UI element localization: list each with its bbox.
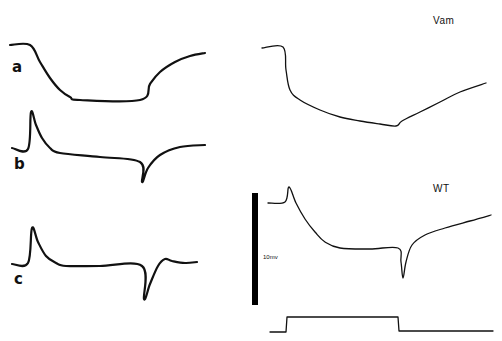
trace-wt bbox=[268, 187, 491, 278]
condition-label-wt: WT bbox=[433, 183, 450, 194]
figure-canvas bbox=[0, 0, 502, 341]
trace-a bbox=[10, 44, 205, 102]
condition-label-vam: Vam bbox=[433, 15, 454, 26]
panel-label-b: b bbox=[14, 155, 25, 173]
figure: a b c Vam WT 10mv bbox=[0, 0, 502, 341]
stimulus-trace bbox=[270, 317, 493, 332]
panel-label-c: c bbox=[14, 270, 23, 288]
trace-vam bbox=[262, 45, 486, 126]
trace-c bbox=[12, 227, 197, 299]
panel-label-a: a bbox=[12, 58, 22, 76]
scale-bar-label: 10mv bbox=[263, 254, 278, 260]
trace-b bbox=[12, 111, 205, 182]
voltage-scale-bar bbox=[252, 193, 258, 305]
